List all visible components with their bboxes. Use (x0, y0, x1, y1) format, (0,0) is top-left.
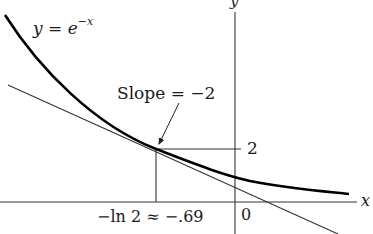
y-axis-label: y (230, 0, 238, 9)
curve-label-base: y = e (33, 18, 78, 38)
exponential-curve (5, 15, 349, 194)
origin-label: 0 (241, 207, 251, 223)
curve-label: y = e−x (33, 18, 93, 37)
y-tick-label: 2 (247, 140, 258, 157)
diagram-canvas: y = e−x Slope = −2 y x 2 0 −ln 2 ≈ −.69 (0, 0, 373, 234)
slope-label: Slope = −2 (117, 85, 215, 102)
slope-arrow (159, 103, 179, 144)
x-point-label: −ln 2 ≈ −.69 (97, 209, 204, 225)
x-axis-label: x (361, 193, 370, 209)
curve-label-exponent: −x (78, 15, 93, 28)
